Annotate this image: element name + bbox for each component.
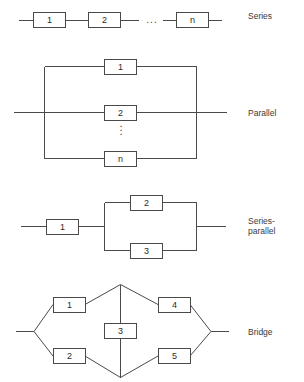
series-ellipsis: ... <box>146 14 157 25</box>
bridge-edge-5-to-right <box>190 332 211 357</box>
block-label-sp-3: 3 <box>144 246 149 256</box>
parallel-vertical-ellipsis: ... <box>114 121 128 133</box>
row-label-parallel: Parallel <box>248 108 276 118</box>
block-label-bridge-5: 5 <box>172 351 177 361</box>
block-label-bridge-2: 2 <box>67 351 72 361</box>
bridge-edge-2-to-bottom <box>85 356 121 378</box>
series-diagram: 1 2 ... n <box>19 13 222 28</box>
block-label-parallel-n: n <box>118 154 123 164</box>
row-label-series-parallel: Series- parallel <box>248 216 275 236</box>
bridge-edge-top-to-4 <box>121 285 159 305</box>
bridge-edge-4-to-right <box>190 305 211 332</box>
block-label-series-1: 1 <box>47 15 52 25</box>
block-label-parallel-1: 1 <box>118 62 123 72</box>
block-label-sp-1: 1 <box>60 222 65 232</box>
bridge-edge-bottom-to-5 <box>121 356 159 378</box>
row-label-series: Series <box>248 11 272 21</box>
bridge-diagram: 1 2 3 4 5 <box>16 285 229 378</box>
block-label-bridge-3: 3 <box>118 326 123 336</box>
row-label-bridge: Bridge <box>248 327 273 337</box>
reliability-block-diagram-figure: 1 2 ... n 1 2 n <box>0 0 304 382</box>
bridge-edge-1-to-top <box>85 285 121 305</box>
series-parallel-diagram: 1 2 3 <box>21 196 226 259</box>
diagram-canvas: 1 2 ... n 1 2 n <box>0 0 304 382</box>
parallel-diagram: 1 2 n <box>14 60 227 167</box>
bridge-edge-left-to-1 <box>34 305 53 332</box>
bridge-edge-left-to-2 <box>34 332 53 357</box>
block-label-series-n: n <box>190 15 195 25</box>
block-label-bridge-1: 1 <box>67 300 72 310</box>
block-label-series-2: 2 <box>102 15 107 25</box>
block-label-bridge-4: 4 <box>172 300 177 310</box>
block-label-sp-2: 2 <box>144 198 149 208</box>
